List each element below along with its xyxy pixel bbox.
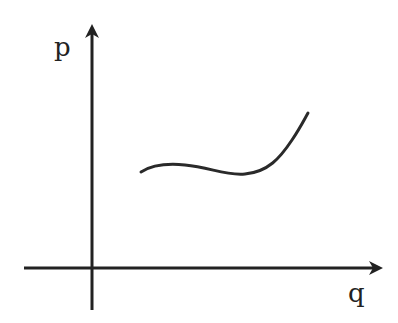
y-axis-label: p (54, 34, 71, 60)
x-axis-label: q (348, 280, 365, 306)
diagram-canvas: p q (0, 0, 398, 323)
curve (141, 113, 308, 174)
